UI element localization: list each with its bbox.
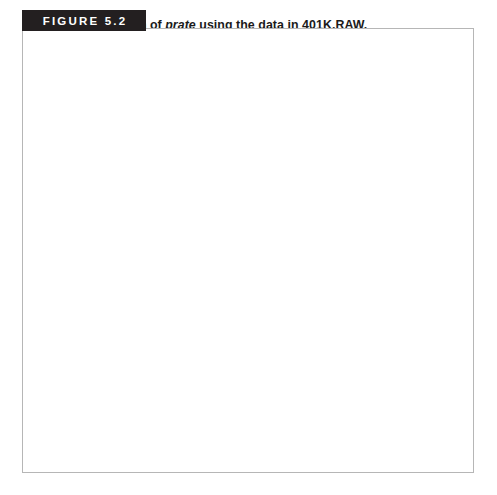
figure-number-label: FIGURE 5.2 <box>41 15 128 27</box>
figure-content-box <box>22 28 474 473</box>
figure-number-tag: FIGURE 5.2 <box>22 10 146 31</box>
figure-container: FIGURE 5.2 Histogram of prate using the … <box>0 0 497 495</box>
